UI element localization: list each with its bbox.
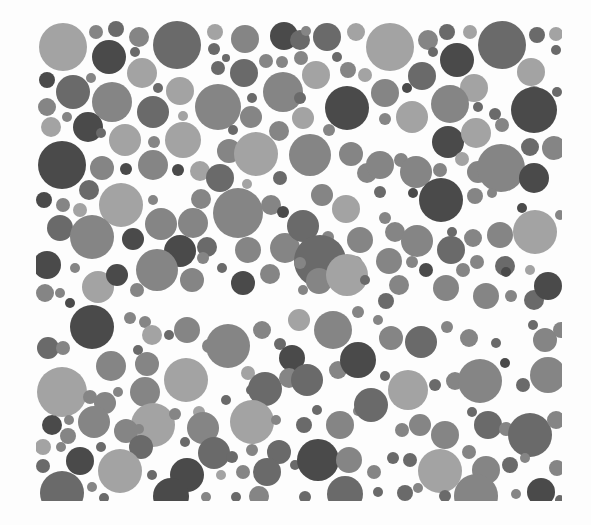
dot	[253, 458, 281, 486]
dot	[253, 321, 271, 339]
dot	[395, 423, 409, 437]
dot	[511, 489, 521, 499]
dot	[387, 452, 399, 464]
dot	[360, 275, 370, 285]
dot	[79, 180, 99, 200]
dot	[276, 56, 288, 68]
dot	[373, 487, 383, 497]
dot	[92, 40, 126, 74]
dot	[403, 453, 417, 467]
dot	[352, 306, 364, 318]
dot	[301, 26, 311, 36]
dot	[41, 117, 61, 137]
dot	[373, 315, 383, 325]
dot	[195, 84, 241, 130]
dot	[70, 263, 80, 273]
dot	[221, 395, 231, 405]
dot	[455, 152, 469, 166]
dot	[148, 136, 160, 148]
dot	[462, 445, 476, 459]
dot	[517, 203, 527, 213]
dot	[473, 283, 499, 309]
dot	[461, 118, 491, 148]
dot	[33, 251, 61, 279]
dot	[38, 98, 56, 116]
dot	[90, 156, 114, 180]
dot	[120, 163, 132, 175]
dot	[56, 341, 70, 355]
dot	[495, 118, 509, 132]
dot	[336, 447, 362, 473]
dot	[467, 407, 477, 417]
dot	[36, 459, 50, 473]
dot	[73, 203, 87, 217]
dot	[271, 415, 281, 425]
dot	[347, 23, 365, 41]
dot	[47, 215, 73, 241]
dot	[165, 122, 201, 158]
dot	[487, 222, 513, 248]
dot	[463, 25, 477, 39]
dot	[153, 21, 201, 69]
dot	[197, 252, 209, 264]
dot	[478, 21, 526, 69]
dot	[401, 225, 433, 257]
dot	[406, 256, 418, 268]
dot	[441, 321, 453, 333]
dot	[142, 325, 162, 345]
dot	[396, 101, 428, 133]
dot	[397, 485, 413, 501]
dot	[206, 164, 234, 192]
dot	[73, 112, 103, 142]
dot	[439, 24, 455, 40]
dot	[98, 449, 142, 493]
dot	[273, 171, 287, 185]
dot	[474, 411, 502, 439]
dot	[419, 263, 433, 277]
dot	[376, 248, 402, 274]
dot	[164, 330, 174, 340]
circle-plate-image	[0, 0, 591, 525]
dot	[529, 27, 545, 43]
dot	[519, 163, 549, 193]
dot	[96, 442, 106, 452]
dot	[206, 324, 250, 368]
dot	[294, 51, 308, 65]
dot	[277, 206, 289, 218]
dot	[431, 421, 459, 449]
dot	[191, 189, 211, 209]
dot	[96, 128, 106, 138]
dot	[230, 400, 274, 444]
dot	[433, 275, 459, 301]
dot	[42, 415, 62, 435]
dot	[130, 47, 140, 57]
dot	[70, 305, 114, 349]
dot	[379, 326, 403, 350]
dot	[313, 23, 341, 51]
dot	[178, 208, 208, 238]
dot	[405, 326, 437, 358]
dot	[323, 124, 335, 136]
dot	[339, 142, 363, 166]
dot	[379, 113, 391, 125]
dot	[108, 21, 124, 37]
dot	[456, 263, 470, 277]
dot	[169, 408, 181, 420]
dot	[433, 163, 447, 177]
dot	[231, 271, 255, 295]
dot	[122, 228, 144, 250]
dot	[552, 87, 562, 97]
dot	[106, 264, 128, 286]
dot	[431, 85, 469, 123]
dot	[129, 27, 149, 47]
dot	[340, 342, 376, 378]
dot	[332, 52, 342, 62]
dot	[473, 102, 483, 112]
dot	[213, 188, 263, 238]
dot	[240, 106, 262, 128]
dot	[234, 132, 278, 176]
dot	[198, 437, 230, 469]
dot	[489, 108, 501, 120]
dot	[388, 370, 428, 410]
dot	[487, 188, 497, 198]
